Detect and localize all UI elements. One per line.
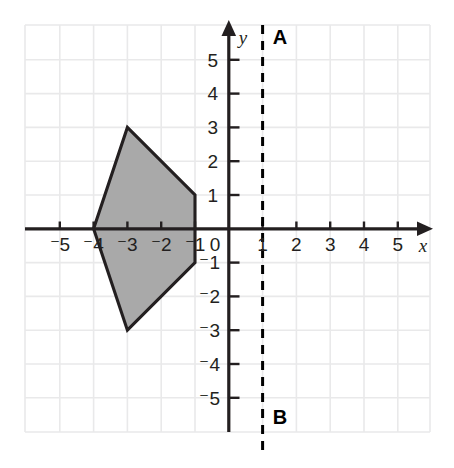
y-tick-label-neg3: ⁻3 bbox=[199, 320, 220, 341]
y-tick-label-4: 4 bbox=[207, 83, 218, 104]
x-tick-label-2: 2 bbox=[291, 234, 302, 255]
dashed-line-bottom-label: B bbox=[273, 406, 287, 428]
x-tick-label-neg4: ⁻4 bbox=[83, 234, 104, 255]
y-axis-label: y bbox=[237, 27, 248, 48]
x-tick-label-neg2: ⁻2 bbox=[151, 234, 172, 255]
coordinate-plane-figure: ⁻5 ⁻4 ⁻3 ⁻2 ⁻1 1 2 3 4 5 0 5 4 3 2 1 ⁻1 … bbox=[0, 0, 454, 468]
x-tick-label-4: 4 bbox=[359, 234, 370, 255]
y-tick-label-neg2: ⁻2 bbox=[199, 286, 220, 307]
x-tick-label-neg3: ⁻3 bbox=[117, 234, 138, 255]
y-tick-label-1: 1 bbox=[207, 185, 218, 206]
x-axis-label: x bbox=[418, 235, 428, 256]
dashed-line-top-label: A bbox=[273, 26, 287, 48]
x-tick-label-1: 1 bbox=[257, 234, 268, 255]
y-tick-label-5: 5 bbox=[207, 50, 218, 71]
y-tick-label-neg4: ⁻4 bbox=[199, 354, 220, 375]
coordinate-plane-svg: ⁻5 ⁻4 ⁻3 ⁻2 ⁻1 1 2 3 4 5 0 5 4 3 2 1 ⁻1 … bbox=[0, 0, 454, 468]
y-tick-label-2: 2 bbox=[207, 151, 218, 172]
y-tick-label-neg1: ⁻1 bbox=[199, 252, 220, 273]
y-tick-label-neg5: ⁻5 bbox=[199, 388, 220, 409]
y-tick-label-3: 3 bbox=[207, 117, 218, 138]
x-tick-label-5: 5 bbox=[393, 234, 404, 255]
x-tick-label-neg5: ⁻5 bbox=[50, 234, 71, 255]
x-tick-label-3: 3 bbox=[325, 234, 336, 255]
